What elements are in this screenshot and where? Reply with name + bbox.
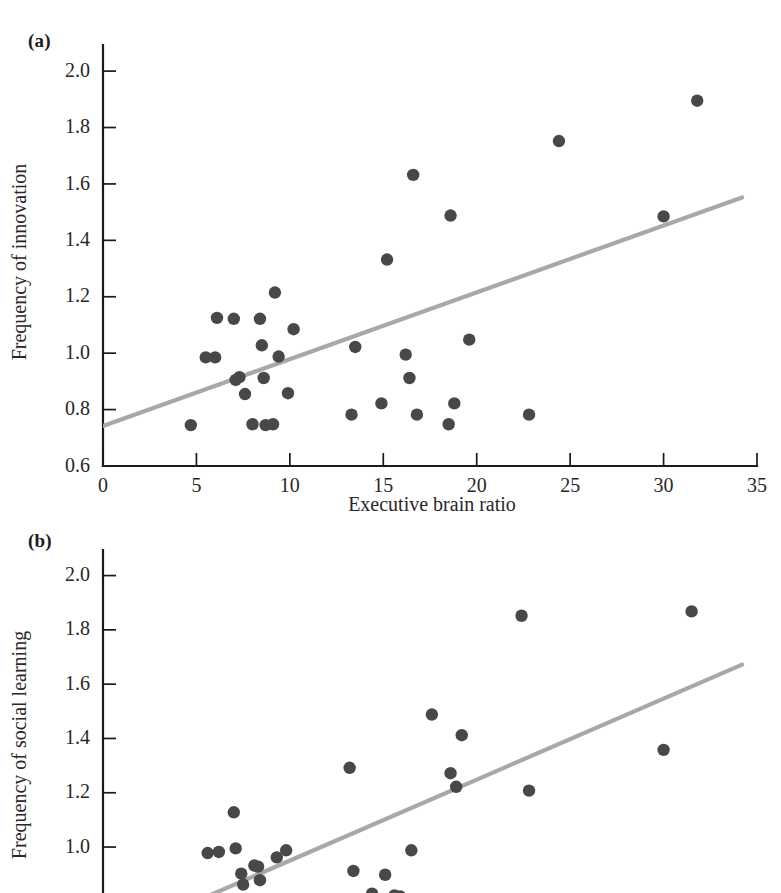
data-point bbox=[444, 209, 456, 221]
data-point bbox=[375, 397, 387, 409]
y-tick-label-1.4: 1.4 bbox=[65, 726, 90, 748]
x-tick-label-5: 5 bbox=[191, 474, 201, 496]
data-point bbox=[209, 351, 221, 363]
data-point bbox=[523, 408, 535, 420]
y-tick-label-1.2: 1.2 bbox=[65, 284, 90, 306]
data-point bbox=[254, 313, 266, 325]
data-point bbox=[407, 169, 419, 181]
y-tick-label-1.6: 1.6 bbox=[65, 172, 90, 194]
data-point bbox=[239, 388, 251, 400]
data-point bbox=[345, 408, 357, 420]
data-point bbox=[685, 605, 697, 617]
data-point bbox=[254, 874, 266, 886]
data-point bbox=[213, 846, 225, 858]
data-point bbox=[228, 313, 240, 325]
y-tick-label-1.8: 1.8 bbox=[65, 617, 90, 639]
data-point bbox=[267, 418, 279, 430]
data-point bbox=[343, 762, 355, 774]
y-tick-label-0.8: 0.8 bbox=[65, 397, 90, 419]
data-point bbox=[287, 323, 299, 335]
plot-area bbox=[103, 95, 742, 432]
data-point bbox=[456, 729, 468, 741]
y-tick-label-1.0: 1.0 bbox=[65, 341, 90, 363]
data-point bbox=[442, 418, 454, 430]
y-tick-label-1.8: 1.8 bbox=[65, 115, 90, 137]
y-tick-label-2.0: 2.0 bbox=[65, 563, 90, 585]
data-point bbox=[211, 312, 223, 324]
data-point bbox=[366, 888, 378, 893]
data-point bbox=[233, 371, 245, 383]
y-tick-label-1.2: 1.2 bbox=[65, 780, 90, 802]
data-point bbox=[379, 869, 391, 881]
data-point bbox=[237, 878, 249, 890]
x-tick-label-25: 25 bbox=[560, 474, 580, 496]
data-point bbox=[282, 387, 294, 399]
data-point bbox=[657, 744, 669, 756]
data-point bbox=[444, 767, 456, 779]
panel-a-plot: 0.60.81.01.21.41.61.82.005101520253035Fr… bbox=[0, 0, 781, 545]
data-point bbox=[515, 610, 527, 622]
data-point bbox=[405, 844, 417, 856]
data-point bbox=[553, 135, 565, 147]
data-point bbox=[400, 348, 412, 360]
y-tick-label-2.0: 2.0 bbox=[65, 59, 90, 81]
data-point bbox=[347, 865, 359, 877]
data-point bbox=[201, 847, 213, 859]
panel-b: (b) 0.81.01.21.41.61.82.0Frequency of so… bbox=[0, 520, 781, 893]
data-point bbox=[246, 418, 258, 430]
data-point bbox=[426, 708, 438, 720]
plot-area bbox=[103, 605, 742, 893]
panel-a: (a) 0.60.81.01.21.41.61.82.0051015202530… bbox=[0, 0, 781, 545]
y-tick-label-1.4: 1.4 bbox=[65, 228, 90, 250]
y-tick-label-0.6: 0.6 bbox=[65, 454, 90, 476]
x-tick-label-10: 10 bbox=[280, 474, 300, 496]
data-point bbox=[256, 339, 268, 351]
data-point bbox=[272, 350, 284, 362]
data-point bbox=[235, 867, 247, 879]
data-point bbox=[280, 844, 292, 856]
data-point bbox=[229, 842, 241, 854]
data-point bbox=[411, 408, 423, 420]
data-point bbox=[185, 419, 197, 431]
figure-container: (a) 0.60.81.01.21.41.61.82.0051015202530… bbox=[0, 0, 781, 893]
data-point bbox=[381, 253, 393, 265]
data-point bbox=[448, 397, 460, 409]
x-axis-title: Executive brain ratio bbox=[348, 493, 516, 515]
panel-b-plot: 0.81.01.21.41.61.82.0Frequency of social… bbox=[0, 520, 781, 893]
data-point bbox=[450, 781, 462, 793]
data-point bbox=[657, 210, 669, 222]
data-point bbox=[523, 784, 535, 796]
data-point bbox=[228, 806, 240, 818]
y-tick-label-1.0: 1.0 bbox=[65, 835, 90, 857]
x-tick-label-35: 35 bbox=[747, 474, 767, 496]
x-tick-label-0: 0 bbox=[98, 474, 108, 496]
data-point bbox=[691, 95, 703, 107]
data-point bbox=[349, 341, 361, 353]
data-point bbox=[269, 286, 281, 298]
regression-line bbox=[103, 665, 742, 893]
x-tick-label-30: 30 bbox=[654, 474, 674, 496]
data-point bbox=[403, 372, 415, 384]
y-tick-label-1.6: 1.6 bbox=[65, 672, 90, 694]
y-tick-label-0.8: 0.8 bbox=[65, 889, 90, 893]
data-point bbox=[257, 372, 269, 384]
y-axis-title: Frequency of innovation bbox=[8, 164, 31, 361]
y-axis-title: Frequency of social learning bbox=[8, 631, 31, 859]
data-point bbox=[252, 860, 264, 872]
regression-line bbox=[103, 197, 742, 425]
data-point bbox=[463, 333, 475, 345]
